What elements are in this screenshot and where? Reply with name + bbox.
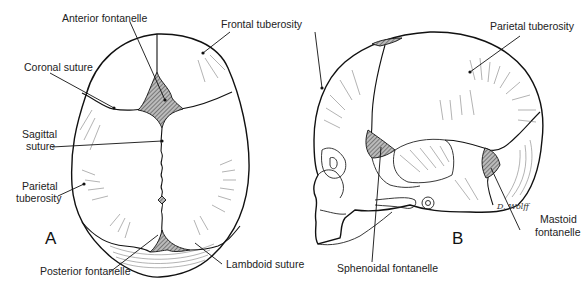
label-parietal-tuberosity-line1: Parietal	[22, 180, 58, 192]
label-sphenoidal-fontanelle: Sphenoidal fontanelle	[337, 262, 438, 274]
label-sagittal-suture-line2: suture	[26, 140, 55, 152]
label-posterior-fontanelle: Posterior fontanelle	[40, 265, 131, 277]
infant-skull-figure: Anterior fontanelle Frontal tuberosity C…	[0, 0, 587, 288]
artist-signature: D. Wolff	[496, 202, 530, 211]
label-parietal-tuberosity-line2: tuberosity	[16, 192, 62, 204]
label-mastoid-fontanelle-line1: Mastoid	[540, 213, 577, 225]
label-lambdoid-suture: Lambdoid suture	[226, 258, 304, 270]
label-mastoid-fontanelle-line2: fontanelle	[535, 226, 581, 238]
label-anterior-fontanelle: Anterior fontanelle	[62, 12, 147, 24]
panel-letter-b: B	[452, 229, 463, 248]
skull-b-outline	[314, 32, 543, 244]
panel-b-skull-lateral: Parietal tuberosity Mastoid fontanelle S…	[314, 20, 581, 274]
label-parietal-tuberosity-b: Parietal tuberosity	[490, 20, 575, 32]
panel-a-skull-superior: Anterior fontanelle Frontal tuberosity C…	[16, 12, 304, 277]
label-frontal-tuberosity: Frontal tuberosity	[221, 18, 303, 30]
label-sagittal-suture-line1: Sagittal	[22, 128, 57, 140]
label-coronal-suture: Coronal suture	[24, 61, 93, 73]
panel-letter-a: A	[45, 229, 57, 248]
